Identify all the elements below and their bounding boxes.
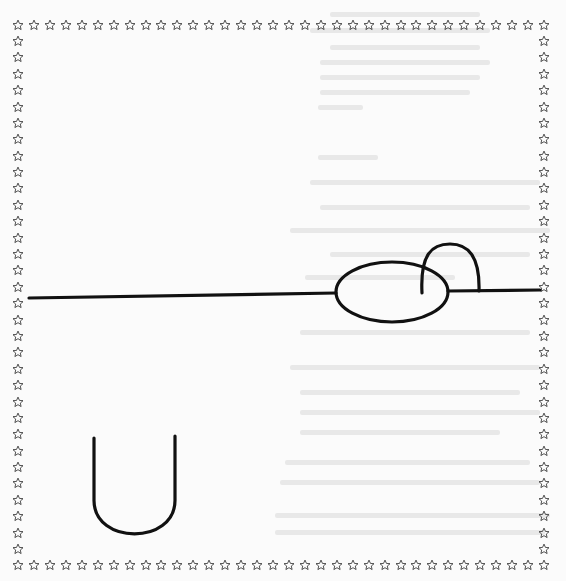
tracing-drawing xyxy=(0,0,566,581)
horizontal-stroke-left xyxy=(29,293,336,298)
oval-stroke xyxy=(336,262,448,322)
worksheet-page xyxy=(0,0,566,581)
horizontal-stroke-right xyxy=(448,290,540,291)
u-shape-stroke xyxy=(94,436,175,534)
